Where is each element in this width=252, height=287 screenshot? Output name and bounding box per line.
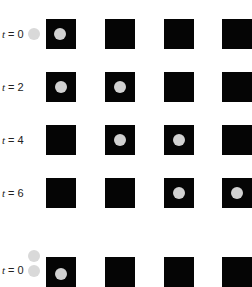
square <box>222 178 252 208</box>
ball-outside-icon <box>28 250 40 262</box>
time-label-t4: t = 4 <box>2 134 24 146</box>
ball-icon <box>55 268 67 280</box>
square <box>105 257 135 287</box>
square <box>222 125 252 155</box>
square <box>222 19 252 49</box>
square <box>46 125 76 155</box>
ball-icon <box>55 81 67 93</box>
square <box>46 19 76 49</box>
square <box>105 178 135 208</box>
square <box>164 257 194 287</box>
square <box>105 125 135 155</box>
time-label-t0: t = 0 <box>2 28 24 40</box>
square <box>164 72 194 102</box>
square <box>164 178 194 208</box>
square <box>164 125 194 155</box>
square <box>105 19 135 49</box>
square <box>105 72 135 102</box>
ball-icon <box>173 134 185 146</box>
square <box>164 19 194 49</box>
time-label-t0-second: t = 0 <box>2 264 24 276</box>
time-label-t6: t = 6 <box>2 187 24 199</box>
square <box>46 178 76 208</box>
square <box>222 257 252 287</box>
ball-icon <box>54 28 66 40</box>
ball-outside-icon <box>28 28 40 40</box>
ball-outside-icon <box>28 265 40 277</box>
square <box>46 257 76 287</box>
ball-icon <box>231 187 243 199</box>
ball-icon <box>114 134 126 146</box>
ball-icon <box>114 81 126 93</box>
square <box>46 72 76 102</box>
time-label-t2: t = 2 <box>2 81 24 93</box>
square <box>222 72 252 102</box>
ball-icon <box>173 187 185 199</box>
